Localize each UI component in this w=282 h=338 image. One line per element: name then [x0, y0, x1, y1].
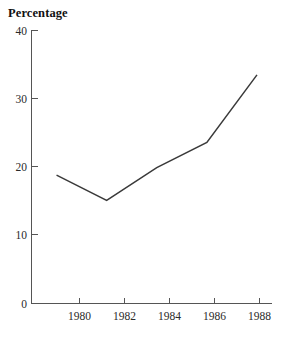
y-tick-label-20: 20	[16, 161, 28, 173]
x-tick-label-1988: 1988	[248, 310, 271, 322]
chart-container: Percentage 40 30 20 10 0 1980 1982 1984 …	[0, 0, 282, 338]
x-tick-label-1986: 1986	[203, 310, 226, 322]
y-tick-label-40: 40	[16, 25, 28, 37]
x-tick-label-1984: 1984	[158, 310, 181, 322]
line-chart-plot: 40 30 20 10 0 1980 1982 1984 1986 1988	[0, 0, 282, 338]
x-tick-label-1982: 1982	[113, 310, 136, 322]
x-tick-label-1980: 1980	[68, 310, 91, 322]
data-series-line	[57, 75, 257, 201]
y-tick-label-0: 0	[21, 298, 27, 310]
y-tick-label-30: 30	[16, 93, 28, 105]
y-tick-label-10: 10	[16, 229, 28, 241]
